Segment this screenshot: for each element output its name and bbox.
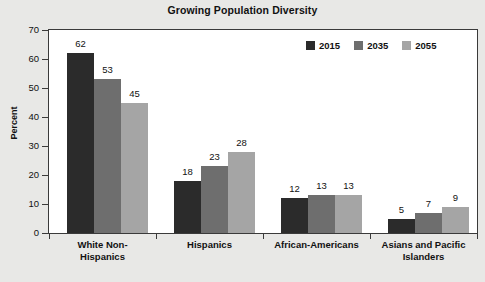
y-tick-label: 40 xyxy=(28,110,39,124)
x-category-label: Asians and PacificIslanders xyxy=(370,239,477,262)
bar-chart: Growing Population Diversity Percent 706… xyxy=(0,0,485,282)
bar: 5 xyxy=(388,219,415,234)
bar: 28 xyxy=(228,152,255,233)
bar-value-label: 5 xyxy=(399,204,404,215)
bar-value-label: 53 xyxy=(102,64,113,75)
bar-group: 625345 xyxy=(67,30,148,233)
bar-value-label: 9 xyxy=(453,192,458,203)
x-category-label: White Non-Hispanics xyxy=(49,239,156,262)
x-category-label-line: Hispanics xyxy=(49,251,156,263)
bar-value-label: 13 xyxy=(343,180,354,191)
bar: 62 xyxy=(67,53,94,233)
legend-label: 2035 xyxy=(367,40,388,51)
legend-item: 2035 xyxy=(354,40,388,51)
bar: 9 xyxy=(442,207,469,233)
bar: 13 xyxy=(308,195,335,233)
chart-title: Growing Population Diversity xyxy=(0,4,485,16)
x-tick-mark xyxy=(477,234,478,239)
x-category-label: African-Americans xyxy=(263,239,370,251)
bar: 45 xyxy=(121,103,148,234)
bar-value-label: 7 xyxy=(426,198,431,209)
y-tick-label: 10 xyxy=(28,197,39,211)
legend-swatch-icon xyxy=(402,41,411,50)
bar-value-label: 62 xyxy=(75,38,86,49)
y-axis-label: Percent xyxy=(9,93,19,153)
bar-value-label: 45 xyxy=(129,88,140,99)
bar-group: 182328 xyxy=(174,30,255,233)
y-tick-label: 70 xyxy=(28,23,39,37)
y-tick-label: 20 xyxy=(28,168,39,182)
y-tick-label: 30 xyxy=(28,139,39,153)
bar: 23 xyxy=(201,166,228,233)
x-category-label-line: Hispanics xyxy=(156,239,263,251)
legend-item: 2015 xyxy=(306,40,340,51)
bar: 12 xyxy=(281,198,308,233)
bar: 18 xyxy=(174,181,201,233)
y-tick-label: 50 xyxy=(28,81,39,95)
y-tick-label: 0 xyxy=(34,226,39,240)
bar-value-label: 23 xyxy=(209,151,220,162)
bar: 13 xyxy=(335,195,362,233)
legend-label: 2015 xyxy=(319,40,340,51)
bar: 53 xyxy=(94,79,121,233)
bar-value-label: 13 xyxy=(316,180,327,191)
bars-layer: 625345182328121313579 xyxy=(49,30,477,233)
x-category-label: Hispanics xyxy=(156,239,263,251)
bar-value-label: 12 xyxy=(289,183,300,194)
bar-group: 579 xyxy=(388,30,469,233)
legend: 201520352055 xyxy=(306,40,436,51)
legend-label: 2055 xyxy=(415,40,436,51)
legend-swatch-icon xyxy=(306,41,315,50)
x-category-label-line: White Non- xyxy=(49,239,156,251)
bar: 7 xyxy=(415,213,442,233)
legend-item: 2055 xyxy=(402,40,436,51)
x-category-label-line: African-Americans xyxy=(263,239,370,251)
x-category-label-line: Asians and Pacific xyxy=(370,239,477,251)
bar-value-label: 28 xyxy=(236,137,247,148)
bar-group: 121313 xyxy=(281,30,362,233)
legend-swatch-icon xyxy=(354,41,363,50)
x-category-label-line: Islanders xyxy=(370,251,477,263)
y-tick-label: 60 xyxy=(28,52,39,66)
bar-value-label: 18 xyxy=(182,166,193,177)
